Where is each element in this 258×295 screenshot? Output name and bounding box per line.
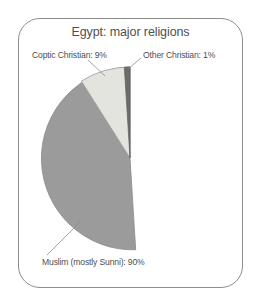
leader-line-muslim <box>47 222 80 255</box>
slice-label-muslim: Muslim (mostly Sunni): 90% <box>42 257 145 267</box>
pie-chart <box>0 0 258 295</box>
slice-label-other-christian: Other Christian: 1% <box>143 50 215 60</box>
slice-label-coptic-christian: Coptic Christian: 9% <box>32 50 107 60</box>
leader-line-other-christian <box>128 58 141 69</box>
chart-title: Egypt: major religions <box>18 25 243 39</box>
figure-container: Egypt: major religions Coptic Christian:… <box>0 0 258 295</box>
